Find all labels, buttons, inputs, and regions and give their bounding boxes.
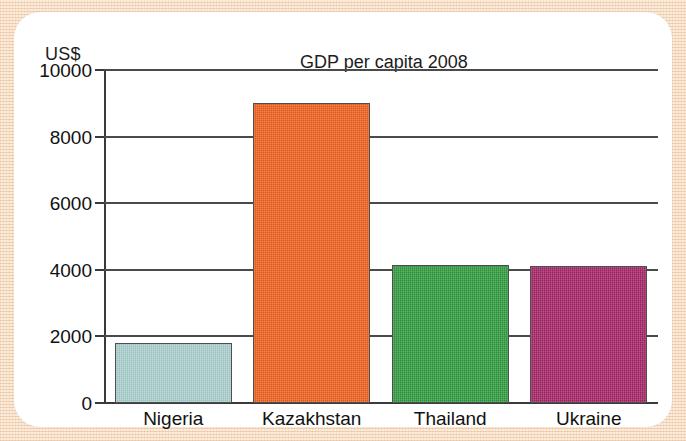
y-tick-2000	[95, 335, 104, 337]
bar-chart: US$ GDP per capita 2008 1000080006000400…	[14, 12, 672, 427]
gridline-6000	[104, 202, 658, 204]
x-label-nigeria: Nigeria	[143, 408, 203, 430]
y-tick-label-6000: 6000	[50, 194, 92, 213]
y-tick-6000	[95, 202, 104, 204]
y-tick-10000	[95, 69, 104, 71]
gridline-8000	[104, 136, 658, 138]
gridline-10000	[104, 69, 658, 71]
bar-thailand	[392, 265, 509, 403]
y-tick-8000	[95, 136, 104, 138]
plot-area	[104, 70, 658, 403]
y-axis-tick-labels: 1000080006000400020000	[14, 70, 92, 403]
bar-nigeria	[115, 343, 232, 403]
y-tick-label-4000: 4000	[50, 260, 92, 279]
bar-ukraine	[530, 266, 647, 403]
y-tick-label-10000: 10000	[39, 61, 92, 80]
chart-card: US$ GDP per capita 2008 1000080006000400…	[14, 12, 672, 427]
y-tick-label-8000: 8000	[50, 127, 92, 146]
y-tick-label-2000: 2000	[50, 327, 92, 346]
x-label-ukraine: Ukraine	[556, 408, 621, 430]
y-axis-line	[104, 69, 106, 404]
y-tick-label-0: 0	[81, 394, 92, 413]
x-label-thailand: Thailand	[414, 408, 487, 430]
page-background: US$ GDP per capita 2008 1000080006000400…	[0, 0, 686, 441]
bar-kazakhstan	[253, 103, 370, 403]
y-tick-4000	[95, 269, 104, 271]
x-label-kazakhstan: Kazakhstan	[262, 408, 361, 430]
y-tick-0	[95, 402, 104, 404]
